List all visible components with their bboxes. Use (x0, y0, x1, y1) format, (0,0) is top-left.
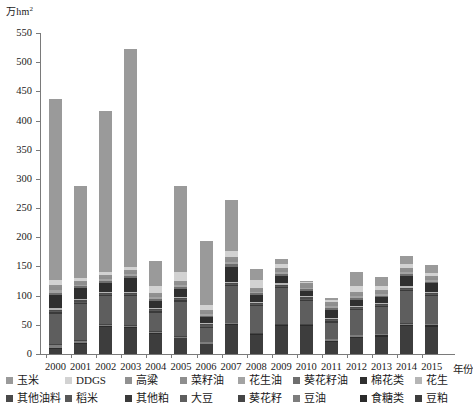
legend-item-大豆[interactable]: 大豆 (180, 392, 213, 404)
bar-2000 (49, 99, 62, 354)
bar-segment-玉米 (225, 200, 238, 251)
legend-item-棉花类[interactable]: 棉花类 (360, 374, 404, 386)
bar-segment-豆粕 (425, 327, 438, 354)
bar-2012 (350, 272, 363, 354)
bar-segment-玉米 (400, 256, 413, 264)
legend-item-豆油[interactable]: 豆油 (293, 392, 326, 404)
bar-2001 (74, 186, 87, 354)
bar-segment-玉米 (425, 265, 438, 273)
x-tick-label: 2012 (343, 361, 369, 372)
bar-segment-棉花类 (400, 276, 413, 287)
x-tick-label: 2000 (43, 361, 69, 372)
legend-item-DDGS[interactable]: DDGS (65, 374, 106, 386)
x-tick-mark (397, 354, 398, 358)
legend-label: 其他油料 (17, 392, 61, 404)
bar-segment-棉花类 (149, 301, 162, 308)
x-tick-mark (121, 354, 122, 358)
legend-swatch-icon (293, 395, 300, 402)
x-tick-mark (272, 354, 273, 358)
legend-item-稻米[interactable]: 稻米 (65, 392, 98, 404)
bar-segment-大豆 (325, 323, 338, 339)
legend-label: 花生 (426, 374, 448, 386)
y-tick-mark (36, 150, 40, 151)
bar-segment-大豆 (49, 314, 62, 344)
legend-swatch-icon (65, 377, 72, 384)
x-tick-mark (422, 354, 423, 358)
legend-swatch-icon (360, 377, 367, 384)
y-tick-mark (36, 354, 40, 355)
legend-label: 豆粕 (426, 392, 448, 404)
bar-segment-豆粕 (300, 326, 313, 354)
legend-item-其他粕[interactable]: 其他粕 (125, 392, 169, 404)
legend-label: 葵花籽油 (304, 374, 348, 386)
x-tick-mark (297, 354, 298, 358)
bar-2005 (174, 186, 187, 354)
y-tick-mark (36, 179, 40, 180)
y-tick-mark (36, 237, 40, 238)
legend-swatch-icon (180, 377, 187, 384)
legend-label: 花生油 (249, 374, 282, 386)
legend-item-其他油料[interactable]: 其他油料 (6, 392, 61, 404)
y-tick-label: 400 (16, 116, 32, 126)
bar-segment-棉花类 (74, 288, 87, 299)
legend-label: DDGS (76, 374, 106, 386)
bar-segment-大豆 (149, 313, 162, 332)
bar-segment-玉米 (49, 99, 62, 280)
bar-segment-棉花类 (275, 276, 288, 284)
legend-swatch-icon (125, 377, 132, 384)
bar-2004 (149, 261, 162, 354)
plot-area: 050100150200250300350400450500550 200020… (40, 33, 455, 354)
bar-segment-棉花类 (99, 283, 112, 292)
y-tick-mark (36, 266, 40, 267)
legend-item-玉米[interactable]: 玉米 (6, 374, 39, 386)
x-tick-label: 2014 (394, 361, 420, 372)
y-tick-mark (36, 296, 40, 297)
y-tick-mark (36, 33, 40, 34)
bar-segment-豆粕 (250, 335, 263, 354)
legend-item-花生[interactable]: 花生 (415, 374, 448, 386)
legend-item-豆粕[interactable]: 豆粕 (415, 392, 448, 404)
legend-item-葵花籽油[interactable]: 葵花籽油 (293, 374, 348, 386)
legend-label: 其他粕 (136, 392, 169, 404)
x-tick-mark (71, 354, 72, 358)
y-tick-label: 550 (16, 28, 32, 38)
legend-item-高粱[interactable]: 高粱 (125, 374, 158, 386)
bar-segment-大豆 (200, 328, 213, 342)
legend-swatch-icon (415, 377, 422, 384)
y-axis-line (40, 33, 41, 354)
legend-label: 棉花类 (371, 374, 404, 386)
bar-2006 (200, 241, 213, 354)
legend-item-食糖类[interactable]: 食糖类 (360, 392, 404, 404)
y-tick-label: 150 (16, 261, 32, 271)
bar-segment-大豆 (99, 296, 112, 324)
legend-item-菜籽油[interactable]: 菜籽油 (180, 374, 224, 386)
y-tick-label: 200 (16, 232, 32, 242)
y-axis-unit-label: 万hm2 (6, 3, 33, 18)
legend-label: 菜籽油 (191, 374, 224, 386)
legend-swatch-icon (415, 395, 422, 402)
bar-segment-棉花类 (225, 267, 238, 282)
bar-segment-豆粕 (124, 328, 137, 354)
legend-swatch-icon (65, 395, 72, 402)
x-tick-mark (222, 354, 223, 358)
legend-swatch-icon (360, 395, 367, 402)
bar-segment-豆粕 (99, 327, 112, 354)
bar-segment-豆粕 (49, 349, 62, 354)
bar-segment-大豆 (275, 288, 288, 324)
legend-item-花生油[interactable]: 花生油 (238, 374, 282, 386)
x-tick-label: 2006 (193, 361, 219, 372)
bar-2011 (325, 297, 338, 354)
x-tick-label: 2010 (293, 361, 319, 372)
legend-item-葵花籽[interactable]: 葵花籽 (238, 392, 282, 404)
bar-2008 (250, 269, 263, 354)
x-tick-mark (46, 354, 47, 358)
y-tick-mark (36, 121, 40, 122)
legend-label: 葵花籽 (249, 392, 282, 404)
bar-segment-棉花类 (174, 289, 187, 297)
y-tick-mark (36, 325, 40, 326)
chart-legend: 玉米DDGS高粱菜籽油花生油葵花籽油棉花类花生其他油料稻米其他粕大豆葵花籽豆油食… (0, 372, 461, 408)
x-tick-mark (322, 354, 323, 358)
y-tick-label: 300 (16, 174, 32, 184)
x-tick-label: 2008 (243, 361, 269, 372)
